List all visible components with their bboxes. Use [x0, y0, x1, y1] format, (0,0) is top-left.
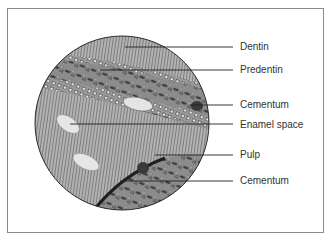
- label-pulp: Pulp: [240, 149, 260, 161]
- cementum-nucleus: [191, 101, 203, 111]
- label-cementum-upper: Cementum: [240, 99, 289, 111]
- label-enamel-space: Enamel space: [240, 119, 303, 131]
- label-cementum-lower: Cementum: [240, 175, 289, 187]
- label-dentin: Dentin: [240, 41, 269, 53]
- micrograph-field: [20, 30, 230, 220]
- pulp-nucleus: [137, 162, 149, 174]
- label-predentin: Predentin: [240, 64, 283, 76]
